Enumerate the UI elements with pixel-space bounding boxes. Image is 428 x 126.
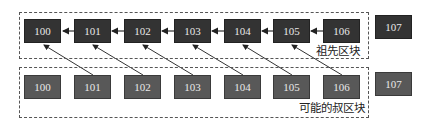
- ancestor-block-100: 100: [24, 19, 61, 43]
- uncle-block-100: 100: [24, 75, 61, 99]
- ancestor-block-104: 104: [224, 19, 261, 43]
- next-block-top-107: 107: [375, 15, 412, 39]
- ancestor-block-103: 103: [174, 19, 211, 43]
- ancestor-block-105: 105: [273, 19, 310, 43]
- uncle-block-101: 101: [74, 75, 111, 99]
- uncle-block-103: 103: [174, 75, 211, 99]
- uncle-group-label: 可能的叔区块: [299, 99, 365, 115]
- uncle-block-106: 106: [323, 75, 360, 99]
- ancestor-block-102: 102: [124, 19, 161, 43]
- blockchain-uncle-diagram: 100 101 102 103 104 105 106 祖先区块 107 100…: [0, 0, 428, 126]
- ancestor-block-106: 106: [323, 19, 360, 43]
- uncle-block-104: 104: [224, 75, 261, 99]
- next-block-bottom-107: 107: [375, 72, 412, 96]
- uncle-block-105: 105: [273, 75, 310, 99]
- uncle-block-102: 102: [124, 75, 161, 99]
- ancestor-block-101: 101: [74, 19, 111, 43]
- ancestor-group-label: 祖先区块: [316, 42, 360, 58]
